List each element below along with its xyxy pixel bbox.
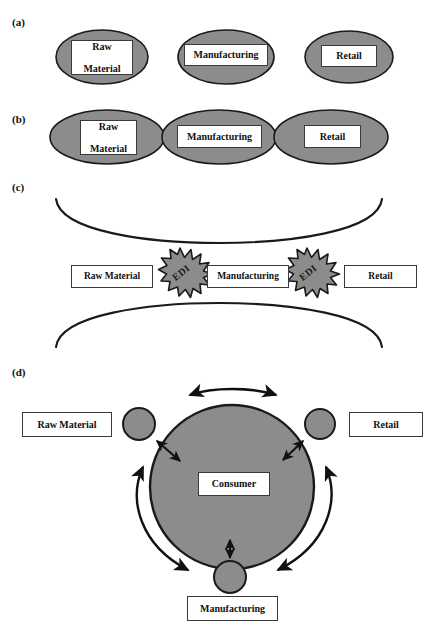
box-manufacturing-a: Manufacturing	[184, 44, 268, 66]
box-label: Retail	[305, 131, 360, 142]
box-line-1: Raw	[81, 121, 136, 132]
box-raw-material-b: Raw Material	[80, 120, 137, 155]
panel-label-a: (a)	[12, 16, 25, 28]
circle-node-retail	[305, 409, 335, 439]
box-consumer-d: Consumer	[198, 472, 270, 496]
box-manufacturing-c: Manufacturing	[207, 265, 289, 288]
starburst-shape	[286, 248, 340, 298]
box-label: Retail	[322, 50, 376, 61]
box-label: Consumer	[199, 478, 269, 489]
box-label: Manufacturing	[185, 49, 267, 60]
starburst-shape	[159, 248, 213, 298]
box-line-2: Material	[72, 63, 132, 74]
circle-node-raw-material	[123, 408, 155, 440]
box-label: Raw Material	[72, 271, 152, 282]
box-raw-material-a: Raw Material	[71, 40, 133, 75]
arc-bottom-c	[56, 303, 382, 347]
box-retail-b: Retail	[304, 125, 361, 148]
box-manufacturing-d: Manufacturing	[187, 596, 278, 621]
box-retail-a: Retail	[321, 45, 377, 67]
panel-label-d: (d)	[12, 366, 25, 378]
box-raw-material-d: Raw Material	[22, 412, 112, 437]
panel-d-shapes	[123, 405, 335, 593]
box-retail-d: Retail	[349, 412, 423, 437]
starburst-edi-left	[159, 248, 213, 298]
arc-top-c	[56, 199, 382, 243]
box-label: Manufacturing	[178, 131, 261, 142]
box-label: Retail	[350, 419, 422, 430]
box-manufacturing-b: Manufacturing	[177, 125, 262, 148]
box-line-1: Raw	[72, 41, 132, 52]
circle-node-manufacturing	[214, 561, 246, 593]
box-label: Raw Material	[23, 419, 111, 430]
panel-label-b: (b)	[12, 113, 25, 125]
figure-canvas: (a) (b) (c) (d) Raw Material Manufacturi…	[0, 0, 436, 627]
box-retail-c: Retail	[344, 265, 417, 288]
arrow-top-double	[190, 389, 276, 395]
box-label: Manufacturing	[188, 603, 277, 614]
starburst-edi-right	[286, 248, 340, 298]
panel-label-c: (c)	[12, 181, 24, 193]
diagram-shapes	[0, 0, 436, 627]
box-raw-material-c: Raw Material	[71, 265, 153, 288]
box-line-2: Material	[81, 143, 136, 154]
box-label: Retail	[345, 271, 416, 282]
box-label: Manufacturing	[208, 271, 288, 282]
